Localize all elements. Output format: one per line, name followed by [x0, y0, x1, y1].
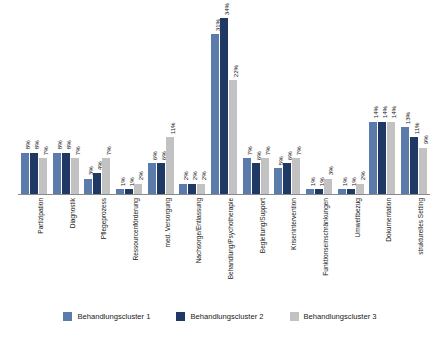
x-axis-line	[18, 194, 430, 195]
bar-wrapper: 6%	[148, 8, 156, 194]
legend-label: Behandlungscluster 1	[77, 312, 150, 321]
x-axis-tick-label: Ressourcenförderung	[133, 198, 140, 260]
bar[interactable]	[93, 173, 101, 194]
bar[interactable]	[188, 184, 196, 194]
bar-wrapper: 8%	[21, 8, 29, 194]
bar-group: 1%1%3%	[303, 8, 335, 194]
bar[interactable]	[197, 184, 205, 194]
bar-group: 2%2%2%	[176, 8, 208, 194]
bar-wrapper: 1%	[306, 8, 314, 194]
bar-wrapper: 7%	[71, 8, 79, 194]
bar[interactable]	[134, 184, 142, 194]
bar-wrapper: 2%	[134, 8, 142, 194]
bar[interactable]	[356, 184, 364, 194]
bar[interactable]	[419, 148, 427, 195]
bar[interactable]	[387, 122, 395, 194]
x-label-cell: Diagnostik	[50, 196, 82, 300]
bar-value-label: 14%	[392, 107, 398, 119]
plot-area: 8%8%7%8%8%7%3%4%7%1%1%2%6%6%11%2%2%2%31%…	[18, 8, 430, 194]
bar-chart: 8%8%7%8%8%7%3%4%7%1%1%2%6%6%11%2%2%2%31%…	[0, 0, 440, 339]
bar[interactable]	[21, 153, 29, 194]
bar-wrapper: 7%	[39, 8, 47, 194]
bar-wrapper: 34%	[220, 8, 228, 194]
bar[interactable]	[166, 137, 174, 194]
bar[interactable]	[243, 158, 251, 194]
bar-wrapper: 1%	[125, 8, 133, 194]
bar[interactable]	[252, 163, 260, 194]
bar[interactable]	[283, 163, 291, 194]
bar-wrapper: 1%	[347, 8, 355, 194]
x-axis-tick-label: Funktionseinschränkungen	[323, 198, 330, 276]
bar[interactable]	[410, 137, 418, 194]
x-label-cell: Partizipation	[18, 196, 50, 300]
legend-swatch	[176, 312, 185, 321]
x-axis-tick-label: Krisenintervention	[291, 198, 298, 250]
bar-wrapper: 8%	[30, 8, 38, 194]
bar[interactable]	[157, 163, 165, 194]
bar-wrapper: 11%	[410, 8, 418, 194]
bar[interactable]	[62, 153, 70, 194]
bar-group: 1%1%2%	[335, 8, 367, 194]
bar[interactable]	[378, 122, 386, 194]
bar-wrapper: 2%	[197, 8, 205, 194]
bar[interactable]	[179, 184, 187, 194]
legend-item[interactable]: Behandlungscluster 1	[63, 312, 150, 321]
bar-group: 8%8%7%	[50, 8, 82, 194]
bar[interactable]	[274, 168, 282, 194]
bar[interactable]	[401, 127, 409, 194]
bar[interactable]	[292, 158, 300, 194]
bar-value-label: 11%	[170, 123, 176, 135]
bar-wrapper: 31%	[211, 8, 219, 194]
bar[interactable]	[211, 34, 219, 194]
x-label-cell: Behandlung/Psychotherapie	[208, 196, 240, 300]
bar-value-label: 9%	[423, 136, 429, 145]
legend-label: Behandlungscluster 2	[190, 312, 263, 321]
x-axis-tick-label: Dokumentation	[386, 198, 393, 242]
x-label-cell: Nachsorge/Entlassung	[176, 196, 208, 300]
bar-wrapper: 14%	[369, 8, 377, 194]
bar-wrapper: 8%	[53, 8, 61, 194]
bar[interactable]	[39, 158, 47, 194]
bar[interactable]	[261, 158, 269, 194]
legend-item[interactable]: Behandlungscluster 3	[290, 312, 377, 321]
bar[interactable]	[220, 18, 228, 194]
bar-value-label: 7%	[43, 146, 49, 155]
bar[interactable]	[84, 179, 92, 195]
bar-wrapper: 3%	[84, 8, 92, 194]
bar-value-label: 2%	[202, 172, 208, 181]
bar[interactable]	[102, 158, 110, 194]
x-label-cell: Krisenintervention	[272, 196, 304, 300]
bar-wrapper: 7%	[292, 8, 300, 194]
bar-group: 5%6%7%	[272, 8, 304, 194]
bar[interactable]	[369, 122, 377, 194]
bar-wrapper: 13%	[401, 8, 409, 194]
bar-value-label: 7%	[75, 146, 81, 155]
x-axis-tick-label: Diagnostik	[70, 198, 77, 228]
bar-value-label: 7%	[107, 146, 113, 155]
bar[interactable]	[53, 153, 61, 194]
bar-wrapper: 1%	[338, 8, 346, 194]
x-label-cell: med. Versorgung	[145, 196, 177, 300]
bar-wrapper: 7%	[261, 8, 269, 194]
bar-wrapper: 1%	[315, 8, 323, 194]
x-label-cell: Dokumentation	[367, 196, 399, 300]
x-axis-tick-label: Pflegeprozess	[101, 198, 108, 239]
bar[interactable]	[229, 80, 237, 194]
bar-wrapper: 6%	[157, 8, 165, 194]
bar[interactable]	[148, 163, 156, 194]
x-axis-tick-label: strukturelles Setting	[418, 198, 425, 255]
bar-wrapper: 7%	[243, 8, 251, 194]
bar[interactable]	[30, 153, 38, 194]
bar-wrapper: 6%	[252, 8, 260, 194]
legend-item[interactable]: Behandlungscluster 2	[176, 312, 263, 321]
bar-group: 14%14%14%	[367, 8, 399, 194]
bar-wrapper: 2%	[356, 8, 364, 194]
x-axis-tick-label: Begleitung/Support	[260, 198, 267, 253]
bar-wrapper: 9%	[419, 8, 427, 194]
bar[interactable]	[71, 158, 79, 194]
x-label-cell: Funktionseinschränkungen	[303, 196, 335, 300]
bar-group: 31%34%22%	[208, 8, 240, 194]
x-label-cell: Umweltbezug	[335, 196, 367, 300]
bar[interactable]	[324, 179, 332, 195]
bar-wrapper: 2%	[188, 8, 196, 194]
